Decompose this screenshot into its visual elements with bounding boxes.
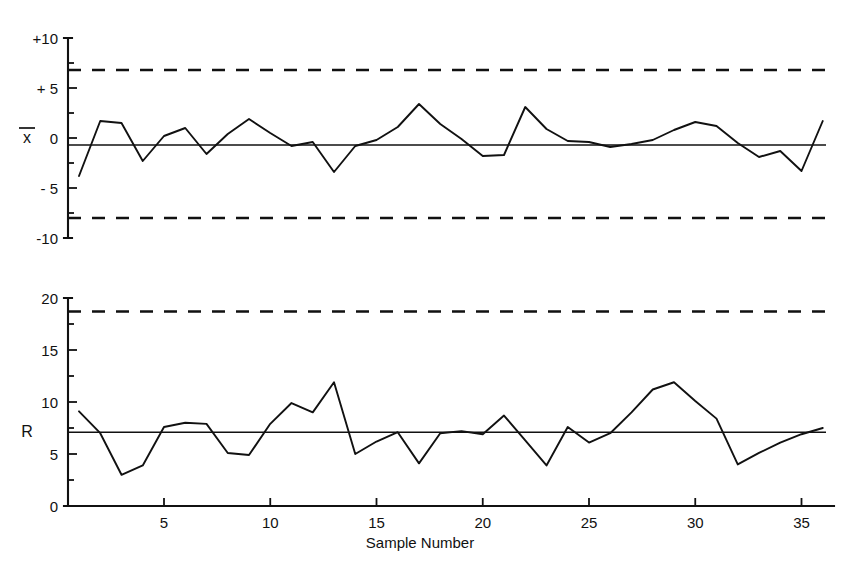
- x-axis-tick-label: 25: [581, 514, 598, 531]
- r-chart: 05101520 R 5101520253035 Sample Number: [21, 290, 834, 551]
- x-axis-tick-labels: 5101520253035: [160, 514, 810, 531]
- x-axis-ticks: [164, 498, 802, 506]
- xbar-y-tick-label: +10: [33, 30, 58, 47]
- control-chart-figure: -10- 50+ 5+10 x 05101520 R: [0, 0, 853, 579]
- xbar-y-tick-label: + 5: [37, 80, 58, 97]
- r-y-tick-label: 5: [50, 446, 58, 463]
- xbar-series-label: x: [23, 129, 31, 146]
- x-axis-tick-label: 35: [793, 514, 810, 531]
- xbar-y-tick-label: 0: [50, 130, 58, 147]
- x-axis-tick-label: 15: [368, 514, 385, 531]
- xbar-y-axis: [64, 38, 77, 238]
- r-data-line: [79, 382, 823, 475]
- xbar-series-label-group: x: [19, 128, 35, 146]
- xbar-data-line: [79, 104, 823, 176]
- chart-canvas: -10- 50+ 5+10 x 05101520 R: [0, 0, 853, 579]
- x-axis-tick-label: 10: [262, 514, 279, 531]
- xbar-y-tick-labels: -10- 50+ 5+10: [33, 30, 58, 247]
- x-axis-tick-label: 5: [160, 514, 168, 531]
- xbar-y-ticks: [68, 63, 77, 213]
- x-axis-tick-label: 30: [687, 514, 704, 531]
- r-series-label: R: [21, 423, 33, 440]
- r-y-tick-label: 15: [41, 342, 58, 359]
- r-y-tick-label: 0: [50, 498, 58, 515]
- xbar-y-tick-label: - 5: [40, 180, 58, 197]
- r-y-tick-label: 10: [41, 394, 58, 411]
- xbar-y-tick-label: -10: [36, 230, 58, 247]
- x-axis-title: Sample Number: [366, 534, 474, 551]
- r-y-tick-labels: 05101520: [41, 290, 58, 515]
- r-y-ticks: [68, 324, 77, 480]
- x-axis-tick-label: 20: [474, 514, 491, 531]
- xbar-chart: -10- 50+ 5+10 x: [19, 30, 826, 247]
- r-y-axis: [64, 298, 77, 506]
- r-y-tick-label: 20: [41, 290, 58, 307]
